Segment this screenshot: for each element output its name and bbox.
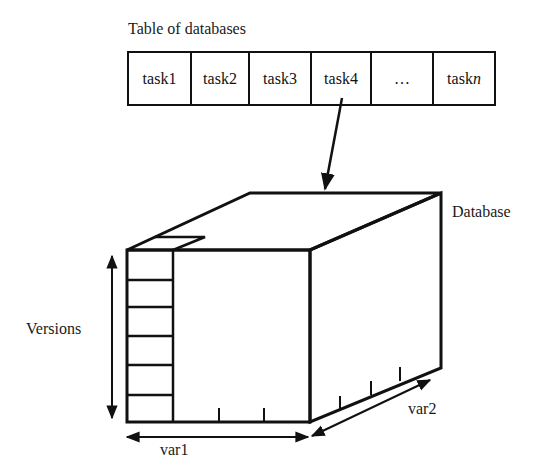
- database-label: Database: [452, 203, 511, 221]
- var2-axis-label: var2: [408, 400, 436, 418]
- pointer-arrow: [325, 98, 342, 189]
- version-rows: [127, 280, 173, 395]
- cube-top-face: [127, 193, 441, 250]
- cube-right-face: [310, 193, 441, 422]
- version-record-top: [155, 237, 205, 250]
- versions-axis-label: Versions: [26, 320, 81, 338]
- var1-ticks: [219, 408, 264, 422]
- database-cube-diagram: [0, 0, 546, 475]
- var1-axis-label: var1: [160, 441, 188, 459]
